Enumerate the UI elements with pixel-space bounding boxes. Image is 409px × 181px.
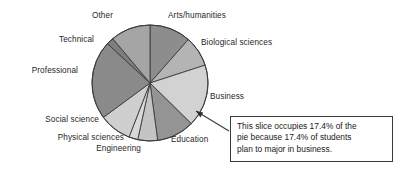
- slice-label-biological-sciences: Biological sciences: [201, 38, 272, 47]
- slice-label-business: Business: [210, 92, 244, 101]
- callout-line-1: This slice occupies 17.4% of the: [237, 121, 387, 132]
- slice-label-physical-sciences: Physical sciences: [19, 133, 124, 142]
- slice-label-other: Other: [58, 11, 113, 20]
- slice-label-social-science: Social science: [14, 115, 99, 124]
- callout-leader-group: [196, 111, 229, 131]
- pie-chart-figure: Arts/humanities Biological sciences Busi…: [0, 0, 409, 181]
- business-callout-box: This slice occupies 17.4% of the pie bec…: [230, 116, 393, 162]
- pie-slice-group: [92, 25, 208, 141]
- callout-line-3: plan to major in business.: [237, 144, 387, 155]
- slice-label-arts-humanities: Arts/humanities: [168, 11, 226, 20]
- slice-label-engineering: Engineering: [41, 144, 141, 153]
- slice-label-professional: Professional: [3, 66, 78, 75]
- slice-label-education: Education: [171, 135, 208, 144]
- callout-line-2: pie because 17.4% of students: [237, 132, 387, 143]
- slice-label-technical: Technical: [24, 35, 94, 44]
